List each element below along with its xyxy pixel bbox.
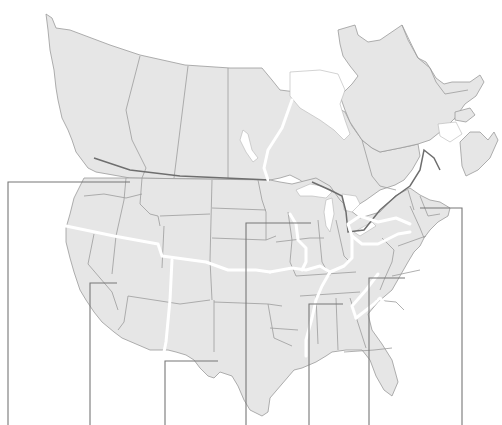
leader-line-new-england [420,208,462,425]
maritimes-landmass [460,132,498,176]
usa-landmass [66,178,450,416]
north-america-map [0,0,502,425]
map-canvas [0,0,502,425]
gulf-of-st-lawrence [438,122,462,142]
